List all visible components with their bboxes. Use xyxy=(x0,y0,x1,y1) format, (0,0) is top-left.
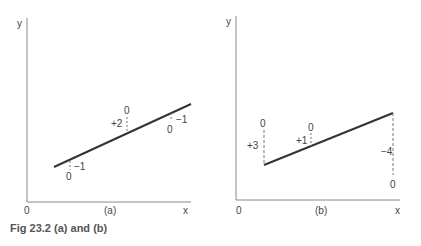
deviation-label: −1 xyxy=(74,161,86,172)
figure-caption: Fig 23.2 (a) and (b) xyxy=(10,222,108,234)
base-label: 0 xyxy=(66,171,72,182)
base-label: 0 xyxy=(124,105,130,116)
deviation-label: −1 xyxy=(176,114,188,125)
base-label: 0 xyxy=(390,179,396,190)
panel-b: y 0 x (b) 0 +3 0 +1 −4 0 xyxy=(226,16,400,216)
regression-line xyxy=(54,104,191,167)
panel-label: (b) xyxy=(315,205,327,216)
base-label: 0 xyxy=(260,118,266,129)
y-axis-label: y xyxy=(17,18,22,29)
origin-label: 0 xyxy=(236,205,242,216)
x-axis-label: x xyxy=(183,205,188,216)
origin-label: 0 xyxy=(24,205,30,216)
deviation-label: −4 xyxy=(381,146,393,157)
deviation-label: +1 xyxy=(296,135,308,146)
panel-a: y 0 x (a) −1 0 +2 0 −1 0 xyxy=(17,18,191,216)
base-label: 0 xyxy=(167,124,173,135)
figure-canvas: y 0 x (a) −1 0 +2 0 −1 0 y 0 x (b) 0 +3 … xyxy=(0,0,421,246)
deviation-label: +3 xyxy=(247,140,259,151)
deviation-label: +2 xyxy=(111,118,123,129)
panel-label: (a) xyxy=(104,205,116,216)
base-label: 0 xyxy=(308,122,314,133)
y-axis-label: y xyxy=(226,16,231,27)
regression-line xyxy=(264,113,393,165)
x-axis-label: x xyxy=(395,205,400,216)
